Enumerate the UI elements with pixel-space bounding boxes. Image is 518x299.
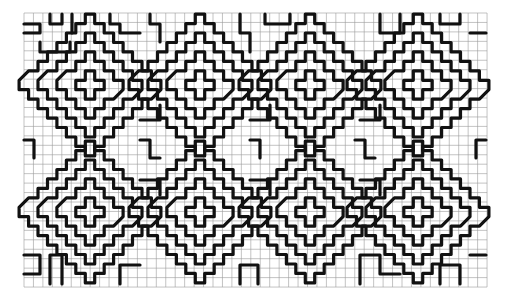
maze-bar [265,14,290,24]
maze-bar [50,14,62,24]
maze-bar [476,140,486,158]
diamond-motif [129,141,271,283]
maze-bar [24,140,34,158]
maze-bar [140,140,160,158]
cross-center [404,71,432,99]
stepped-ring [347,14,489,156]
maze-bar [250,140,260,158]
diamond-motif [347,14,489,156]
pattern-canvas [0,0,518,299]
cross-center [186,71,214,99]
maze-bar [24,24,40,33]
stepped-diamond-motifs [19,14,489,283]
maze-bar [355,140,375,158]
stepped-ring [347,141,489,283]
maze-bar [24,255,40,274]
diamond-motif [347,141,489,283]
maze-bar [440,14,460,24]
maze-bar [50,255,62,284]
stepped-ring [148,33,252,137]
maze-bar [150,14,160,42]
stepped-ring [129,141,271,283]
stepped-ring [148,160,252,264]
cross-center [296,71,324,99]
maze-bar [110,14,140,33]
